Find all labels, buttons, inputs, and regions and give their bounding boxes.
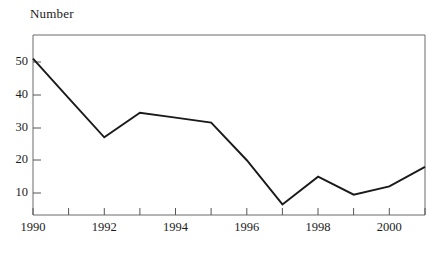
x-axis-ticks <box>33 208 425 215</box>
x-tick-label-2000: 2000 <box>363 221 415 234</box>
y-tick-label-10: 10 <box>4 186 28 199</box>
x-tick-label-1994: 1994 <box>150 221 202 234</box>
x-tick-label-1992: 1992 <box>78 221 130 234</box>
y-tick-label-40: 40 <box>4 88 28 101</box>
x-tick-label-1996: 1996 <box>221 221 273 234</box>
plot-frame <box>33 35 425 215</box>
y-tick-label-50: 50 <box>4 55 28 68</box>
data-series-line <box>33 59 425 205</box>
y-axis-ticks <box>33 62 41 193</box>
x-tick-label-1998: 1998 <box>292 221 344 234</box>
y-tick-label-20: 20 <box>4 153 28 166</box>
x-tick-label-1990: 1990 <box>7 221 59 234</box>
y-tick-label-30: 30 <box>4 121 28 134</box>
line-chart-figure: Number <box>0 0 446 262</box>
